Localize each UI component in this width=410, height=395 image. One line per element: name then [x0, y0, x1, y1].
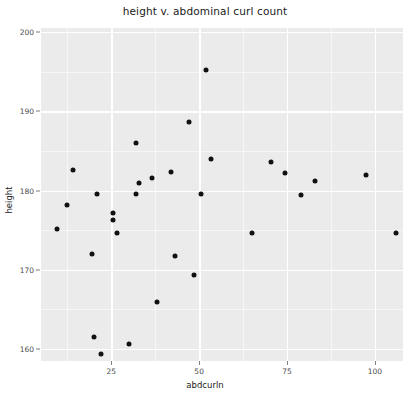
data-point [70, 167, 75, 172]
plot-panel [41, 28, 403, 361]
x-axis-tick-mark [375, 361, 376, 365]
y-axis-tick-label: 190 [6, 107, 34, 116]
data-point [137, 180, 142, 185]
data-point [111, 217, 116, 222]
gridline-horizontal-minor [41, 230, 403, 231]
x-axis-tick-mark [111, 361, 112, 365]
gridline-horizontal-major [41, 270, 403, 271]
data-point [126, 342, 131, 347]
gridline-vertical-major [375, 28, 376, 361]
data-point [313, 179, 318, 184]
data-point [149, 175, 154, 180]
x-axis-label: abdcurln [0, 380, 410, 390]
x-axis-tick-label: 75 [272, 367, 302, 376]
data-point [95, 191, 100, 196]
gridline-horizontal-minor [41, 309, 403, 310]
data-point [54, 226, 59, 231]
gridline-horizontal-minor [41, 151, 403, 152]
gridline-horizontal-major [41, 32, 403, 33]
gridline-vertical-minor [155, 28, 156, 361]
y-axis-tick-mark [36, 31, 40, 32]
y-axis-tick-mark [36, 349, 40, 350]
data-point [364, 172, 369, 177]
data-point [186, 120, 191, 125]
gridline-vertical-major [111, 28, 112, 361]
data-point [249, 231, 254, 236]
y-axis-tick-mark [36, 111, 40, 112]
chart-title: height v. abdominal curl count [0, 5, 410, 17]
data-point [133, 140, 138, 145]
scatter-plot-figure: height v. abdominal curl count 160170180… [0, 0, 410, 395]
data-point [299, 193, 304, 198]
gridline-vertical-minor [67, 28, 68, 361]
gridline-vertical-minor [243, 28, 244, 361]
x-axis-tick-label: 50 [184, 367, 214, 376]
data-point [91, 335, 96, 340]
y-axis-tick-mark [36, 269, 40, 270]
gridline-horizontal-minor [41, 72, 403, 73]
data-point [269, 159, 274, 164]
x-axis-tick-label: 25 [96, 367, 126, 376]
x-axis-tick-mark [287, 361, 288, 365]
data-point [169, 169, 174, 174]
data-point [98, 351, 103, 356]
y-axis-label: height [4, 175, 14, 225]
gridline-vertical-major [287, 28, 288, 361]
data-point [89, 251, 94, 256]
gridline-horizontal-major [41, 111, 403, 112]
gridline-vertical-minor [331, 28, 332, 361]
data-point [283, 171, 288, 176]
data-point [204, 68, 209, 73]
data-point [191, 272, 196, 277]
y-axis-tick-label: 160 [6, 345, 34, 354]
data-point [209, 156, 214, 161]
data-point [133, 191, 138, 196]
x-axis-tick-mark [199, 361, 200, 365]
data-point [393, 231, 398, 236]
gridline-horizontal-major [41, 349, 403, 350]
data-point [154, 299, 159, 304]
data-point [65, 202, 70, 207]
y-axis-tick-mark [36, 190, 40, 191]
data-point [172, 253, 177, 258]
y-axis-tick-label: 170 [6, 265, 34, 274]
data-point [114, 231, 119, 236]
data-point [111, 210, 116, 215]
x-axis-tick-label: 100 [360, 367, 390, 376]
data-point [198, 191, 203, 196]
y-axis-tick-label: 200 [6, 27, 34, 36]
